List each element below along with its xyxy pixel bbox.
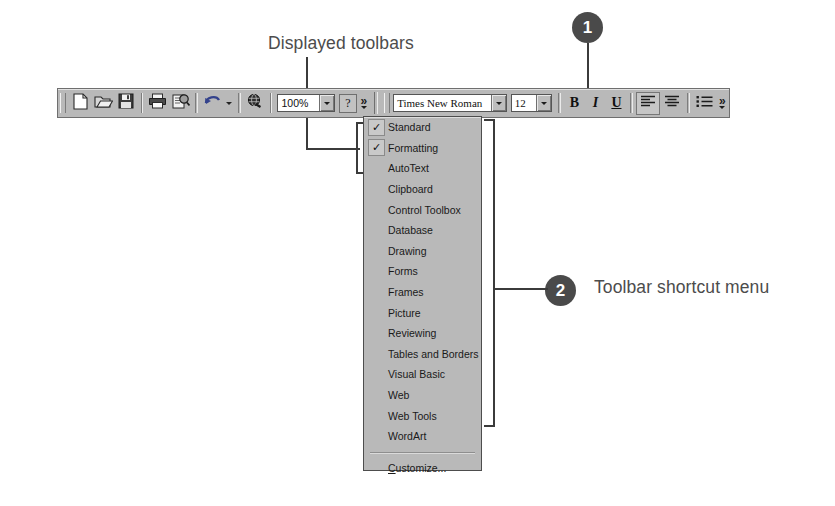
undo-button[interactable]	[201, 92, 224, 115]
zoom-value: 100%	[278, 97, 318, 109]
toolbar-separator-3	[238, 93, 241, 113]
folder-open-icon	[94, 93, 113, 113]
bullets-button[interactable]	[693, 92, 716, 115]
underline-label: U	[611, 95, 621, 111]
floppy-disk-icon	[118, 93, 134, 113]
check-glyph: ✓	[372, 122, 381, 133]
menu-item-label: Clipboard	[388, 183, 433, 195]
toolbar-shortcut-menu: ✓Standard✓Formatting✓AutoText✓Clipboard✓…	[363, 116, 482, 471]
overflow-chevrons-label-2: »	[719, 97, 726, 105]
print-preview-button[interactable]	[169, 92, 192, 115]
printer-icon	[148, 93, 167, 113]
leader-line-badge-2	[494, 288, 548, 290]
menu-item-frames[interactable]: ✓Frames	[364, 282, 481, 303]
font-size-combo[interactable]: 12	[511, 94, 552, 112]
chevron-down-icon	[361, 106, 367, 109]
menu-item-label: Frames	[388, 286, 424, 298]
bold-label: B	[570, 95, 579, 111]
undo-dropdown-arrow[interactable]	[224, 92, 235, 115]
menu-item-label: WordArt	[388, 430, 426, 442]
toolbar-separator-4	[270, 93, 273, 113]
font-name-combo[interactable]: Times New Roman	[393, 94, 507, 112]
menu-item-label: Drawing	[388, 245, 427, 257]
toolbar-separator-7	[687, 93, 690, 113]
check-glyph: ✓	[372, 142, 381, 153]
chevron-down-icon-2	[719, 106, 725, 109]
menu-item-standard[interactable]: ✓Standard	[364, 117, 481, 138]
help-button[interactable]: ?	[339, 94, 357, 113]
menu-item-label: Web	[388, 389, 409, 401]
page-icon	[73, 93, 88, 114]
print-button[interactable]	[146, 92, 169, 115]
menu-item-label: Reviewing	[388, 327, 436, 339]
toolbar-shortcut-menu-list: ✓Standard✓Formatting✓AutoText✓Clipboard✓…	[364, 117, 481, 447]
menu-item-visual-basic[interactable]: ✓Visual Basic	[364, 364, 481, 385]
menu-item-wordart[interactable]: ✓WordArt	[364, 426, 481, 447]
insert-hyperlink-button[interactable]	[244, 92, 267, 115]
standard-toolbar-overflow-button[interactable]: »	[357, 92, 370, 115]
zoom-combo[interactable]: 100%	[277, 94, 334, 112]
callout-label-toolbar-shortcut-menu: Toolbar shortcut menu	[594, 277, 769, 298]
menu-item-label: Picture	[388, 307, 421, 319]
overflow-chevrons-label: »	[360, 97, 367, 105]
formatting-toolbar-overflow-button[interactable]: »	[716, 92, 729, 115]
menu-item-customize-accel: C	[388, 462, 396, 474]
undo-arrow-icon	[204, 94, 222, 112]
italic-button[interactable]: I	[585, 92, 606, 115]
new-document-button[interactable]	[69, 92, 92, 115]
menu-separator	[370, 452, 475, 454]
align-center-icon	[664, 94, 680, 112]
illustration-canvas: Displayed toolbars 1 2 Toolbar shortcut …	[0, 0, 835, 506]
menu-item-label: Database	[388, 224, 433, 236]
checkmark-icon: ✓	[368, 119, 385, 136]
menu-item-web-tools[interactable]: ✓Web Tools	[364, 405, 481, 426]
font-name-dropdown-arrow[interactable]	[491, 95, 506, 111]
menu-item-label: Control Toolbox	[388, 204, 461, 216]
menu-item-clipboard[interactable]: ✓Clipboard	[364, 179, 481, 200]
toolbar-grip-formatting[interactable]	[384, 93, 390, 113]
menu-item-control-toolbox[interactable]: ✓Control Toolbox	[364, 199, 481, 220]
menu-item-drawing[interactable]: ✓Drawing	[364, 241, 481, 262]
menu-item-reviewing[interactable]: ✓Reviewing	[364, 323, 481, 344]
leader-line-badge-1	[587, 43, 589, 93]
font-size-dropdown-arrow[interactable]	[536, 95, 551, 111]
align-center-button[interactable]	[660, 92, 684, 115]
menu-item-customize-label: ustomize...	[396, 462, 447, 474]
save-button[interactable]	[115, 92, 138, 115]
underline-button[interactable]: U	[606, 92, 627, 115]
menu-item-label: AutoText	[388, 162, 429, 174]
toolbar-separator-formatting	[374, 92, 378, 114]
toolbar-separator-2	[195, 93, 198, 113]
callout-badge-1: 1	[572, 12, 603, 43]
menu-item-tables-and-borders[interactable]: ✓Tables and Borders	[364, 344, 481, 365]
menu-item-picture[interactable]: ✓Picture	[364, 302, 481, 323]
menu-item-label: Visual Basic	[388, 368, 445, 380]
checkmark-icon: ✓	[368, 139, 385, 156]
align-left-icon	[640, 94, 656, 112]
menu-item-autotext[interactable]: ✓AutoText	[364, 158, 481, 179]
toolbar-grip-standard[interactable]	[60, 93, 66, 113]
align-left-button[interactable]	[636, 92, 660, 115]
menu-item-formatting[interactable]: ✓Formatting	[364, 138, 481, 159]
menu-item-database[interactable]: ✓Database	[364, 220, 481, 241]
leader-line-displayed-horizontal	[306, 148, 360, 150]
menu-item-customize[interactable]: Customize...	[364, 458, 481, 479]
zoom-dropdown-arrow[interactable]	[319, 95, 334, 111]
menu-item-forms[interactable]: ✓Forms	[364, 261, 481, 282]
open-button[interactable]	[92, 92, 115, 115]
bullet-list-icon	[696, 94, 713, 112]
font-size-value: 12	[512, 97, 536, 109]
menu-item-label: Forms	[388, 265, 418, 277]
menu-item-label: Web Tools	[388, 410, 437, 422]
toolbar-separator-6	[630, 93, 633, 113]
callout-label-displayed-toolbars: Displayed toolbars	[268, 33, 414, 54]
bold-button[interactable]: B	[564, 92, 585, 115]
callout-badge-2: 2	[545, 275, 576, 306]
toolbar-separator-1	[141, 93, 144, 113]
menu-item-web[interactable]: ✓Web	[364, 385, 481, 406]
menu-item-label: Tables and Borders	[388, 348, 478, 360]
bracket-shortcut-menu	[484, 119, 495, 427]
font-name-value: Times New Roman	[394, 97, 491, 109]
print-preview-icon	[172, 93, 190, 113]
help-label: ?	[345, 96, 350, 111]
